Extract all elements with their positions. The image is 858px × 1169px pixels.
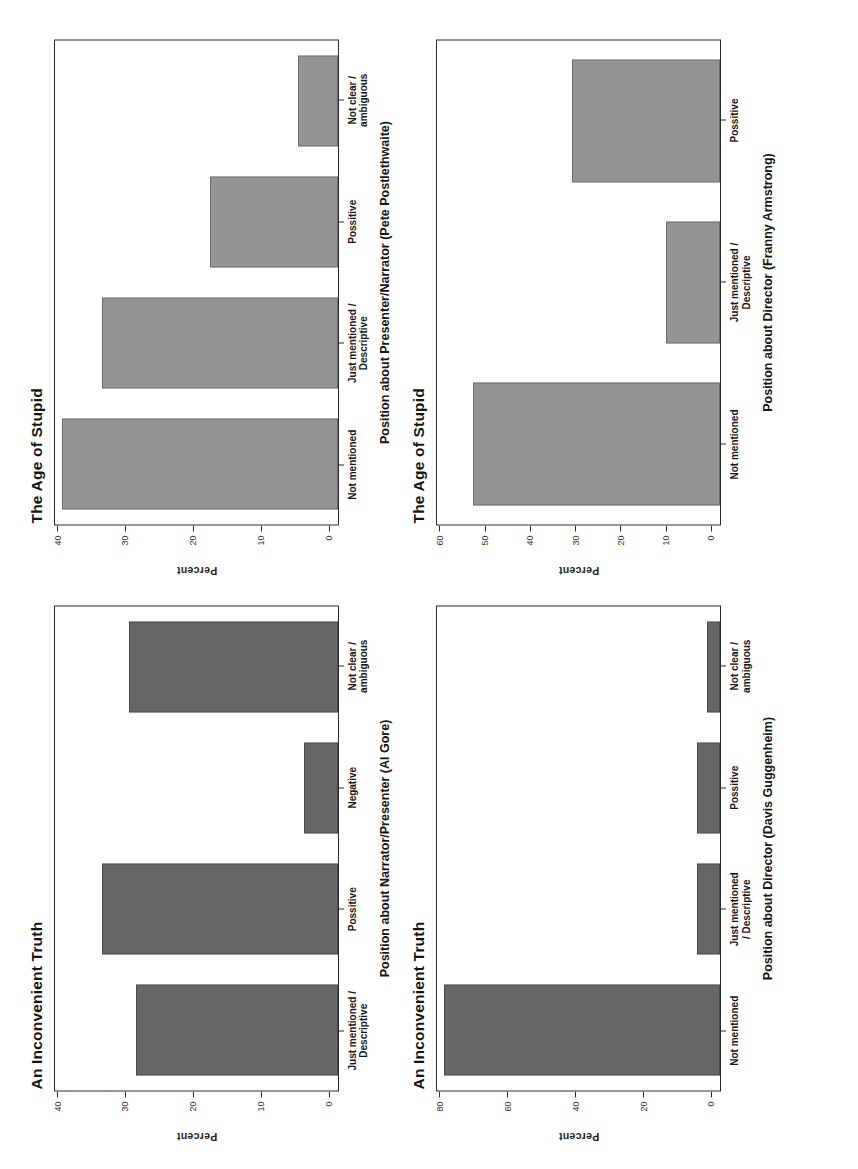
x-tick-mark — [721, 908, 726, 909]
x-tick-mark — [339, 908, 344, 909]
chart-title: The Age of Stupid — [28, 39, 46, 523]
x-category-label: Possitive — [347, 199, 358, 243]
x-category-label: Possitive — [729, 98, 740, 142]
bar[interactable] — [136, 984, 338, 1076]
x-category-label: Possitive — [347, 887, 358, 931]
bar[interactable] — [298, 55, 338, 147]
x-tick-mark — [721, 120, 726, 121]
x-tick-column: Not mentioned — [721, 970, 751, 1092]
x-category-label: Just mentioned / Descriptive — [729, 872, 751, 946]
bar-slot — [437, 363, 720, 524]
x-tick-mark — [721, 444, 726, 445]
y-tick: 50 — [480, 525, 490, 545]
chart-panel-age-of-stupid-presenter: The Age of Stupid Percent 010203040 Not … — [28, 39, 392, 579]
figure-sheet: An Inconvenient Truth Percent 010203040 … — [0, 0, 858, 1169]
x-tick-mark — [339, 787, 344, 788]
bar[interactable] — [666, 221, 720, 344]
plot-wrap: Percent 0102030405060 — [436, 39, 721, 579]
bar-slot — [437, 201, 720, 362]
x-axis-label: Position about Director (Franny Armstron… — [761, 39, 775, 525]
x-category-label: Just mentioned / Descriptive — [729, 242, 751, 321]
x-tick-column: Just mentioned / Descriptive — [721, 848, 751, 970]
bar[interactable] — [102, 863, 338, 955]
y-axis: Percent 010203040 — [54, 525, 339, 579]
x-category-label: Not clear / ambiguous — [729, 639, 751, 692]
bar[interactable] — [62, 418, 338, 510]
y-tick-list: 0102030405060 — [436, 525, 721, 562]
rotated-page-frame: An Inconvenient Truth Percent 010203040 … — [0, 0, 858, 1169]
bar-slot — [55, 606, 338, 727]
chart-row-top: An Inconvenient Truth Percent 010203040 … — [28, 24, 392, 1145]
bar[interactable] — [572, 59, 720, 182]
y-axis: Percent 020406080 — [436, 1091, 721, 1145]
x-tick-column: Negative — [339, 727, 369, 849]
y-tick: 0 — [324, 1091, 334, 1106]
bar-slot — [55, 40, 338, 161]
y-tick: 60 — [435, 525, 445, 545]
x-tick-column: Possitive — [721, 727, 751, 849]
y-axis-label-text: Percent — [176, 565, 217, 577]
y-tick: 20 — [188, 1091, 198, 1111]
x-tick-column: Just mentioned / Descriptive — [339, 970, 369, 1092]
bar[interactable] — [473, 382, 720, 505]
x-tick-mark — [339, 99, 344, 100]
chart-panel-inconvenient-truth-narrator: An Inconvenient Truth Percent 010203040 … — [28, 605, 392, 1145]
x-tick-mark — [721, 282, 726, 283]
bar[interactable] — [129, 621, 338, 713]
x-category-label: Not clear / ambiguous — [347, 73, 369, 126]
x-axis: Not mentionedJust mentioned / Descriptiv… — [721, 605, 751, 1091]
bar-series — [55, 40, 338, 524]
y-axis-label: Percent — [436, 562, 721, 579]
bar-slot — [55, 403, 338, 524]
bar-series — [437, 606, 720, 1090]
bar[interactable] — [707, 621, 720, 713]
plot-wrap: Percent 010203040 — [54, 605, 339, 1145]
bar-series — [437, 40, 720, 524]
plot-area — [436, 605, 721, 1091]
x-tick-mark — [721, 1030, 726, 1031]
chart-panel-age-of-stupid-director: The Age of Stupid Percent 0102030405060 … — [410, 39, 774, 579]
x-tick-column: Not clear / ambiguous — [339, 39, 369, 161]
bar-slot — [55, 282, 338, 403]
plot-wrap: Percent 020406080 — [436, 605, 721, 1145]
y-tick: 40 — [571, 1091, 581, 1111]
y-tick: 10 — [661, 525, 671, 545]
y-tick: 20 — [639, 1091, 649, 1111]
x-category-label: Just mentioned / Descriptive — [347, 991, 369, 1070]
y-tick: 10 — [256, 525, 266, 545]
y-tick-list: 020406080 — [436, 1091, 721, 1128]
x-tick-mark — [339, 464, 344, 465]
y-tick: 30 — [120, 525, 130, 545]
y-tick: 0 — [706, 525, 716, 540]
y-tick: 80 — [435, 1091, 445, 1111]
bar[interactable] — [210, 176, 338, 268]
y-axis-label-text: Percent — [176, 1131, 217, 1143]
x-tick-column: Possitive — [721, 39, 751, 201]
y-tick: 60 — [503, 1091, 513, 1111]
x-tick-mark — [339, 342, 344, 343]
x-tick-column: Possitive — [339, 161, 369, 283]
chart-title: An Inconvenient Truth — [28, 605, 46, 1089]
bar[interactable] — [102, 297, 338, 389]
bar[interactable] — [697, 863, 721, 955]
bar[interactable] — [304, 742, 338, 834]
y-tick: 30 — [571, 525, 581, 545]
y-tick: 40 — [53, 525, 63, 545]
bar-slot — [437, 40, 720, 201]
bar-slot — [55, 848, 338, 969]
bar-slot — [437, 969, 720, 1090]
y-tick-list: 010203040 — [54, 1091, 339, 1128]
bar-series — [55, 606, 338, 1090]
x-category-label: Not mentioned — [729, 995, 740, 1065]
x-axis-label: Position about Director (Davis Guggenhei… — [761, 605, 775, 1091]
bar[interactable] — [697, 742, 721, 834]
plot-area — [436, 39, 721, 525]
x-tick-mark — [339, 665, 344, 666]
x-category-label: Not clear / ambiguous — [347, 639, 369, 692]
x-category-label: Not mentioned — [347, 429, 358, 499]
bar[interactable] — [444, 984, 720, 1076]
x-category-label: Not mentioned — [729, 409, 740, 479]
y-axis-label-text: Percent — [559, 565, 600, 577]
x-tick-column: Just mentioned / Descriptive — [721, 201, 751, 363]
plot-wrap: Percent 010203040 — [54, 39, 339, 579]
